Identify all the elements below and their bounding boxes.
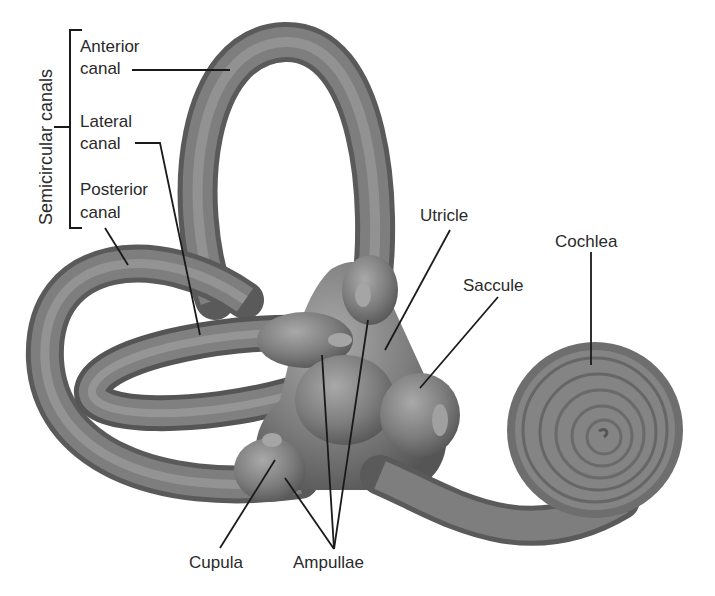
semicircular-bracket bbox=[54, 30, 82, 228]
lateral-canal-label-line1: Lateral bbox=[80, 112, 132, 132]
cochlea-label: Cochlea bbox=[555, 232, 617, 252]
ampullae-label: Ampullae bbox=[293, 553, 364, 573]
inner-ear-diagram: Semicircular canals Anterior canal Later… bbox=[0, 0, 715, 596]
utricle-label: Utricle bbox=[420, 206, 468, 226]
inner-ear-illustration bbox=[0, 0, 715, 596]
saccule-label: Saccule bbox=[463, 276, 523, 296]
anterior-canal-shape bbox=[198, 42, 376, 300]
anterior-canal-label-line2: canal bbox=[80, 59, 121, 79]
utricle-shape bbox=[295, 355, 395, 445]
posterior-canal-label-line2: canal bbox=[80, 203, 121, 223]
lateral-canal-label-line2: canal bbox=[80, 134, 121, 154]
cupula-label: Cupula bbox=[189, 553, 243, 573]
anterior-canal-label-line1: Anterior bbox=[80, 37, 140, 57]
semicircular-canals-label: Semicircular canals bbox=[36, 69, 57, 225]
posterior-canal-label-line1: Posterior bbox=[80, 180, 148, 200]
leader-saccule bbox=[420, 297, 498, 388]
saccule-shape bbox=[380, 373, 460, 457]
cochlea-shape bbox=[507, 342, 683, 518]
